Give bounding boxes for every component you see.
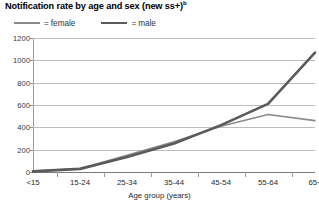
legend-label-male: male: [138, 19, 156, 28]
y-tick-label-1000: 1000: [2, 56, 30, 65]
chart-title: Notification rate by age and sex (new ss…: [5, 1, 187, 11]
chart-figure: Notification rate by age and sex (new ss…: [0, 0, 319, 203]
chart-title-text: Notification rate by age and sex (new ss…: [5, 1, 183, 11]
x-tick-label-0: <15: [26, 178, 39, 187]
y-tick-label-800: 800: [2, 78, 30, 87]
legend-label-female: female: [51, 19, 76, 28]
y-tick-label-600: 600: [2, 101, 30, 110]
y-tick-label-400: 400: [2, 123, 30, 132]
legend-item-female: =female: [14, 19, 75, 28]
legend-separator: =: [131, 19, 136, 28]
chart-title-superscript: b: [183, 0, 187, 6]
series-layer: [33, 38, 315, 172]
x-tick-mark-2: [104, 172, 105, 177]
x-tick-mark-4: [198, 172, 199, 177]
x-axis-tick-labels: <1515-2425-3435-4445-5455-6465+: [33, 178, 315, 189]
legend-separator: =: [44, 19, 49, 28]
x-tick-label-2: 25-34: [117, 178, 137, 187]
x-tick-label-6: 65+: [308, 178, 319, 187]
legend-item-male: =male: [101, 19, 156, 28]
x-tick-label-5: 55-64: [258, 178, 278, 187]
y-tick-label-0: 0: [2, 168, 30, 177]
x-tick-mark-3: [151, 172, 152, 177]
y-tick-label-1200: 1200: [2, 34, 30, 43]
x-tick-mark-5: [245, 172, 246, 177]
y-axis-ticks: 020040060080010001200: [0, 38, 30, 172]
x-tick-label-4: 45-54: [211, 178, 231, 187]
x-axis-title: Age group (years): [0, 191, 319, 200]
x-tick-label-1: 15-24: [70, 178, 90, 187]
series-line-male: [33, 53, 315, 172]
y-tick-label-200: 200: [2, 145, 30, 154]
x-tick-mark-6: [292, 172, 293, 177]
x-tick-mark-1: [57, 172, 58, 177]
legend-swatch-male: [101, 22, 127, 25]
x-tick-label-3: 35-44: [164, 178, 184, 187]
legend-swatch-female: [14, 22, 40, 24]
chart-legend: =female=male: [14, 17, 156, 29]
